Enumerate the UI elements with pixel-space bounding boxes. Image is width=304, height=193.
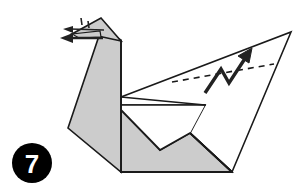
head-tick-mark-icon bbox=[81, 18, 82, 25]
head-push-arrow-upper-shaft bbox=[70, 29, 104, 30]
origami-figure-panel: 7 bbox=[0, 0, 304, 193]
head-tick-mark-2-icon bbox=[88, 21, 89, 28]
step-badge-label: 7 bbox=[25, 149, 39, 179]
step-number-badge: 7 bbox=[12, 143, 52, 183]
origami-diagram-canvas: 7 bbox=[0, 0, 304, 193]
